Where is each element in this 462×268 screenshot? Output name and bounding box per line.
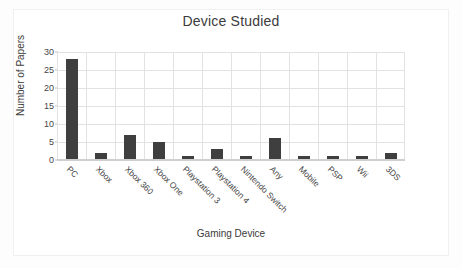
bar[interactable] bbox=[153, 142, 165, 160]
x-tick-label: Any bbox=[267, 164, 284, 181]
x-label-slot: PC bbox=[57, 162, 86, 232]
x-label-slot: Xbox 360 bbox=[115, 162, 144, 232]
x-axis-tick-labels: PCXboxXbox 360Xbox OnePlaystation 3Plays… bbox=[57, 162, 405, 232]
x-axis-line bbox=[57, 159, 405, 160]
bar-slot bbox=[376, 52, 405, 160]
bar-slot bbox=[260, 52, 289, 160]
x-label-slot: Wii bbox=[347, 162, 376, 232]
x-axis-title: Gaming Device bbox=[0, 228, 462, 239]
x-label-slot: Mobile bbox=[289, 162, 318, 232]
x-tick-label: Xbox bbox=[93, 164, 114, 185]
bar-slot bbox=[347, 52, 376, 160]
x-label-slot: Any bbox=[260, 162, 289, 232]
bar-slot bbox=[173, 52, 202, 160]
x-label-slot: Playstation 3 bbox=[173, 162, 202, 232]
y-tick-label: 30 bbox=[44, 47, 54, 57]
plot-area bbox=[57, 52, 405, 160]
chart-figure: Device Studied Number of Papers 05101520… bbox=[0, 0, 462, 268]
x-label-slot: Nintendo Switch bbox=[231, 162, 260, 232]
bar-slot bbox=[318, 52, 347, 160]
chart-title: Device Studied bbox=[0, 13, 462, 29]
x-tick-label: PC bbox=[64, 164, 79, 179]
x-label-slot: Xbox One bbox=[144, 162, 173, 232]
y-tick-label: 25 bbox=[44, 65, 54, 75]
bar[interactable] bbox=[66, 59, 78, 160]
bar-series bbox=[57, 52, 405, 160]
bar-slot bbox=[115, 52, 144, 160]
bar-slot bbox=[86, 52, 115, 160]
x-label-slot: 3DS bbox=[376, 162, 405, 232]
x-tick-label: 3DS bbox=[383, 164, 402, 183]
y-tick-label: 0 bbox=[49, 155, 54, 165]
bar-slot bbox=[144, 52, 173, 160]
y-tick-label: 10 bbox=[44, 119, 54, 129]
bar-slot bbox=[289, 52, 318, 160]
bar-slot bbox=[57, 52, 86, 160]
x-label-slot: Playstation 4 bbox=[202, 162, 231, 232]
x-label-slot: PSP bbox=[318, 162, 347, 232]
y-axis-ticks: 051015202530 bbox=[34, 52, 54, 160]
y-tick-label: 20 bbox=[44, 83, 54, 93]
x-tick-label: Wii bbox=[354, 164, 369, 179]
y-tick-label: 5 bbox=[49, 137, 54, 147]
bar[interactable] bbox=[269, 138, 281, 160]
bar-slot bbox=[231, 52, 260, 160]
bar-slot bbox=[202, 52, 231, 160]
x-label-slot: Xbox bbox=[86, 162, 115, 232]
y-tick-label: 15 bbox=[44, 101, 54, 111]
x-tick-label: PSP bbox=[325, 164, 344, 183]
y-axis-title: Number of Papers bbox=[15, 22, 26, 130]
bar[interactable] bbox=[124, 135, 136, 160]
